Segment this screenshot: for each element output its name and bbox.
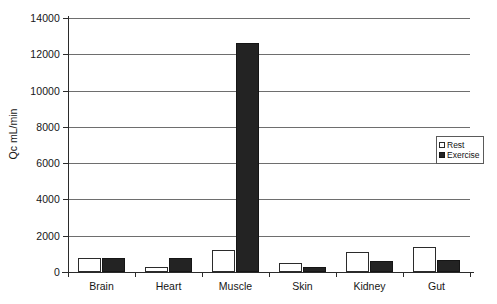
chart-bars	[68, 18, 470, 272]
bar-group	[336, 18, 403, 272]
y-axis-tick-label: 8000	[4, 122, 60, 132]
x-axis-label-muscle: Muscle	[202, 280, 269, 292]
x-axis-line	[62, 272, 474, 273]
bar-group	[269, 18, 336, 272]
legend-item-rest: Rest	[439, 140, 480, 150]
legend-item-exercise: Exercise	[439, 150, 480, 160]
bar-group	[68, 18, 135, 272]
y-axis-tick-label: 14000	[4, 13, 60, 23]
x-axis-tick	[336, 272, 337, 277]
x-axis-tick	[470, 272, 471, 277]
x-axis-label-kidney: Kidney	[336, 280, 403, 292]
y-axis-tick-label: 10000	[4, 86, 60, 96]
bar-group	[202, 18, 269, 272]
bar-kidney-rest	[346, 252, 369, 272]
x-axis-label-brain: Brain	[68, 280, 135, 292]
bar-chart: Qc mL/min 020004000600080001000012000140…	[0, 0, 497, 304]
x-axis-label-skin: Skin	[269, 280, 336, 292]
y-axis-tick-label: 4000	[4, 194, 60, 204]
bar-heart-exercise	[169, 258, 192, 272]
y-axis-tick-label: 0	[4, 267, 60, 277]
bar-skin-rest	[279, 263, 302, 272]
x-axis-label-heart: Heart	[135, 280, 202, 292]
y-axis-tick-labels: 02000400060008000100001200014000	[0, 0, 60, 304]
bar-skin-exercise	[303, 267, 326, 272]
bar-gut-rest	[413, 247, 436, 272]
legend-label-rest: Rest	[447, 140, 464, 150]
y-axis-tick-label: 2000	[4, 231, 60, 241]
y-axis-tick-label: 6000	[4, 158, 60, 168]
x-axis-tick	[135, 272, 136, 277]
open-square-swatch	[439, 142, 445, 148]
bar-heart-rest	[145, 267, 168, 272]
legend-label-exercise: Exercise	[447, 150, 480, 160]
bar-group	[135, 18, 202, 272]
bar-kidney-exercise	[370, 261, 393, 272]
bar-muscle-rest	[212, 250, 235, 272]
x-axis-tick	[202, 272, 203, 277]
x-axis-tick	[269, 272, 270, 277]
y-axis-tick-label: 12000	[4, 49, 60, 59]
x-axis-tick	[403, 272, 404, 277]
bar-brain-rest	[78, 258, 101, 272]
filled-square-swatch	[439, 152, 445, 158]
bar-muscle-exercise	[236, 43, 259, 272]
chart-legend: Rest Exercise	[436, 136, 484, 164]
bar-brain-exercise	[102, 258, 125, 272]
x-axis-label-gut: Gut	[403, 280, 470, 292]
x-axis-tick	[68, 272, 69, 277]
bar-gut-exercise	[437, 260, 460, 272]
